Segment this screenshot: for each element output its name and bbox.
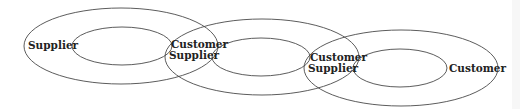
entity-3-group: Customer Supplier Customer: [304, 30, 507, 106]
entity-3-inner-ellipse: [353, 49, 447, 87]
entity-1-supplier-label: Supplier: [28, 39, 79, 51]
entity-3-supplier-label: Supplier: [308, 62, 359, 74]
entity-1-inner-ellipse: [72, 27, 172, 65]
diagram-canvas: Supplier Customer Supplier Customer Supp…: [0, 0, 520, 109]
entity-2-supplier-label: Supplier: [169, 49, 220, 61]
edge-strip: [512, 0, 520, 109]
end-customer-label: Customer: [449, 62, 507, 74]
